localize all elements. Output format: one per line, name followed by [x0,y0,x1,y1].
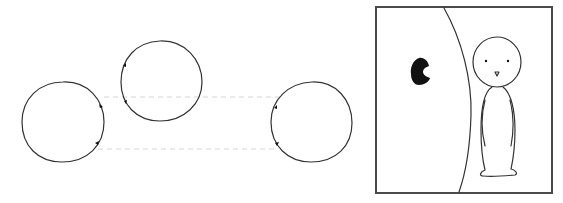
figure-right-eye [507,60,509,62]
illustration-panel [376,7,552,193]
loop-right [271,82,352,162]
panel-frame [376,7,552,193]
loop-left-outline [22,82,104,162]
loop-middle [121,41,202,121]
diagram-canvas [0,0,563,203]
loop-left [22,82,104,162]
figure-left-eye [485,60,487,62]
loop-middle-outline [121,41,202,121]
diagram-svg [0,0,563,203]
loop-right-outline [271,82,352,162]
